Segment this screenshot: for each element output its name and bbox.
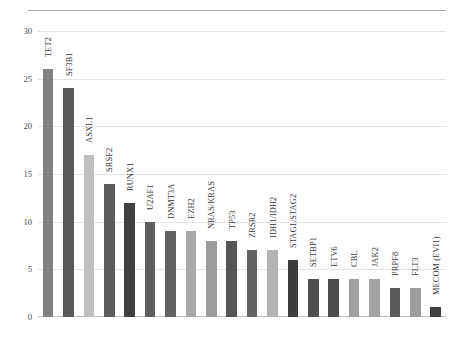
- bar-group: MECOM (EVI1): [430, 31, 441, 317]
- bar-category-label: ETV6: [329, 246, 338, 267]
- bar: [63, 88, 74, 317]
- bar-category-label: FLT3: [411, 258, 420, 277]
- bar-category-label: JAK2: [370, 247, 379, 267]
- bar-category-label: SF3B1: [64, 52, 73, 76]
- bar-category-label: MECOM (EVI1): [431, 237, 440, 296]
- bar-group: NRAS/KRAS: [206, 31, 217, 317]
- bar-group: FLT3: [410, 31, 421, 317]
- bar: [430, 307, 441, 317]
- bar-group: PRPF8: [390, 31, 401, 317]
- bar-group: ZRSR2: [247, 31, 258, 317]
- bar: [308, 279, 319, 317]
- bar: [124, 203, 135, 317]
- y-axis-tick-label: 30: [6, 26, 32, 36]
- bar-category-label: STAG1/STAG2: [288, 194, 297, 248]
- bar-category-label: DNMT3A: [166, 184, 175, 220]
- bar-category-label: RUNX1: [125, 162, 134, 190]
- bar-category-label: SRSF2: [105, 147, 114, 171]
- y-axis-tick-label: 5: [6, 264, 32, 274]
- bar-category-label: U2AF1: [146, 184, 155, 210]
- bar-group: ETV6: [328, 31, 339, 317]
- bar-group: JAK2: [369, 31, 380, 317]
- bar-category-label: ASXL1: [84, 116, 93, 143]
- y-axis-tick-label: 20: [6, 121, 32, 131]
- bar-group: RUNX1: [124, 31, 135, 317]
- bar: [165, 231, 176, 317]
- bar-series: TET2SF3B1ASXL1SRSF2RUNX1U2AF1DNMT3AEZH2N…: [38, 31, 446, 317]
- bar-group: SRSF2: [104, 31, 115, 317]
- bar: [369, 279, 380, 317]
- bar-group: TP53: [226, 31, 237, 317]
- bar-group: EZH2: [186, 31, 197, 317]
- bar-category-label: EZH2: [186, 198, 195, 219]
- bar-group: DNMT3A: [165, 31, 176, 317]
- y-axis-tick-label: 25: [6, 74, 32, 84]
- bar-group: U2AF1: [145, 31, 156, 317]
- bar-category-label: PRPF8: [390, 252, 399, 276]
- y-axis-tick-label: 0: [6, 312, 32, 322]
- bar-category-label: CBL: [350, 250, 359, 267]
- bar: [206, 241, 217, 317]
- bar: [247, 250, 258, 317]
- bar-group: ASXL1: [84, 31, 95, 317]
- bar: [43, 69, 54, 317]
- bar: [145, 222, 156, 317]
- bar-category-label: ZRSR2: [248, 213, 257, 239]
- bar-group: TET2: [43, 31, 54, 317]
- bar-group: CBL: [349, 31, 360, 317]
- y-axis-tick-label: 15: [6, 169, 32, 179]
- bar-group: STAG1/STAG2: [288, 31, 299, 317]
- y-axis-tick-label: 10: [6, 217, 32, 227]
- top-divider-rule: [28, 10, 446, 11]
- bar-category-label: SETBP1: [309, 237, 318, 267]
- bar-category-label: NRAS/KRAS: [207, 181, 216, 229]
- plot-area: TET2SF3B1ASXL1SRSF2RUNX1U2AF1DNMT3AEZH2N…: [38, 31, 446, 317]
- bar-category-label: TET2: [44, 37, 53, 57]
- bar: [410, 288, 421, 317]
- bar: [226, 241, 237, 317]
- bar-group: SF3B1: [63, 31, 74, 317]
- bar: [84, 155, 95, 317]
- bar-category-label: TP53: [227, 210, 236, 229]
- bar: [104, 184, 115, 317]
- bar-chart-figure: 051015202530 TET2SF3B1ASXL1SRSF2RUNX1U2A…: [0, 0, 454, 349]
- bar-group: IDH1/IDH2: [267, 31, 278, 317]
- bar: [186, 231, 197, 317]
- bar: [349, 279, 360, 317]
- bar: [390, 288, 401, 317]
- bar-category-label: IDH1/IDH2: [268, 197, 277, 238]
- bar: [288, 260, 299, 317]
- bar: [267, 250, 278, 317]
- bar-group: SETBP1: [308, 31, 319, 317]
- bar: [328, 279, 339, 317]
